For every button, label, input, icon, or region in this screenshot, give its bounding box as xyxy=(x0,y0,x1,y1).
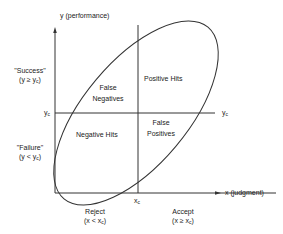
failure-label: "Failure" xyxy=(10,144,50,152)
quadrant-false-positives-line2: Positives xyxy=(141,130,181,138)
x-axis-arrow-icon xyxy=(215,191,221,195)
quadrant-positive-hits: Positive Hits xyxy=(144,75,183,83)
failure-condition: (y < yc) xyxy=(10,153,50,162)
x-axis-label: x (judgment) xyxy=(225,189,264,197)
reject-condition: (x < xc) xyxy=(75,217,115,226)
accept-condition: (x ≥ xc) xyxy=(163,217,203,226)
success-condition: (y ≥ yc) xyxy=(10,76,50,85)
quadrant-negative-hits: Negative Hits xyxy=(76,131,118,139)
y-axis-arrow-icon xyxy=(53,27,57,33)
selection-diagram xyxy=(0,0,283,234)
accept-label: Accept xyxy=(163,208,203,216)
xc-label: xc xyxy=(134,197,140,206)
quadrant-false-positives-line1: False xyxy=(141,119,181,127)
quadrant-false-negatives-line1: False xyxy=(88,84,128,92)
yc-label-left: yc xyxy=(44,109,50,118)
quadrant-false-negatives-line2: Negatives xyxy=(88,95,128,103)
yc-label-right: yc xyxy=(222,109,228,118)
y-axis-label: y (performance) xyxy=(60,12,109,20)
success-label: "Success" xyxy=(10,67,50,75)
reject-label: Reject xyxy=(75,208,115,216)
